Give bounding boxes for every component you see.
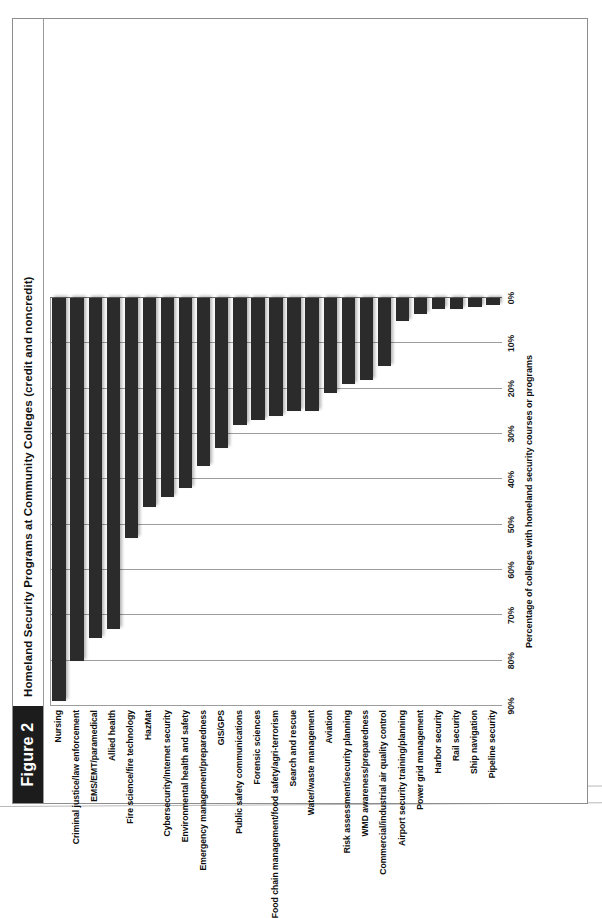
category-label: Search and rescue bbox=[289, 710, 298, 786]
value-axis-title: Percentage of colleges with homeland sec… bbox=[524, 297, 534, 706]
gridline-90% bbox=[50, 705, 502, 706]
bar bbox=[396, 298, 409, 321]
value-axis-tick-labels: 0%10%20%30%40%50%60%70%80%90% bbox=[506, 297, 522, 706]
bar bbox=[52, 298, 65, 701]
tick-label-80%: 80% bbox=[506, 652, 516, 669]
tick-label-70%: 70% bbox=[506, 607, 516, 624]
bar bbox=[414, 298, 427, 314]
bar bbox=[215, 298, 228, 448]
bar bbox=[360, 298, 373, 380]
bar bbox=[70, 298, 83, 661]
category-label: EMS/EMT/paramedical bbox=[90, 710, 99, 802]
figure-caption: Homeland Security Programs at Community … bbox=[13, 276, 43, 697]
bar bbox=[161, 298, 174, 497]
plot-area bbox=[50, 298, 502, 706]
bar bbox=[432, 298, 445, 309]
category-label: Commercial/industrial air quality contro… bbox=[379, 710, 388, 875]
category-label: Power grid management bbox=[416, 710, 425, 810]
category-label: Harbor security bbox=[434, 710, 443, 774]
category-label: Criminal justice/law enforcement bbox=[72, 710, 81, 844]
tick-label-50%: 50% bbox=[506, 516, 516, 533]
category-label: Fire science/fire technology bbox=[126, 710, 135, 824]
bar bbox=[233, 298, 246, 425]
bar bbox=[107, 298, 120, 629]
gridline-80% bbox=[50, 660, 502, 661]
category-label: Allied health bbox=[108, 710, 117, 761]
tick-label-40%: 40% bbox=[506, 471, 516, 488]
category-label: Pipeline security bbox=[488, 710, 497, 778]
category-label: Cybersecurity/Internet security bbox=[163, 710, 172, 837]
bar bbox=[450, 298, 463, 309]
category-label: Ship navigation bbox=[470, 710, 479, 774]
tick-label-10%: 10% bbox=[506, 335, 516, 352]
bar bbox=[342, 298, 355, 384]
bar bbox=[251, 298, 264, 420]
category-label: WMD awareness/preparedness bbox=[361, 710, 370, 837]
category-label: Food chain management/food safety/agri-t… bbox=[271, 710, 280, 918]
plot-top-rule bbox=[50, 297, 51, 706]
category-label: Public safety communications bbox=[235, 710, 244, 834]
category-label: Water/waste management bbox=[307, 710, 316, 815]
bar bbox=[125, 298, 138, 538]
bar bbox=[287, 298, 300, 411]
tick-label-30%: 30% bbox=[506, 425, 516, 442]
category-axis-labels: NursingCriminal justice/law enforcementE… bbox=[50, 710, 502, 810]
category-label: Rail security bbox=[452, 710, 461, 761]
bar bbox=[305, 298, 318, 411]
figure-header: Figure 2 Homeland Security Programs at C… bbox=[13, 19, 43, 803]
bar bbox=[468, 298, 481, 307]
bar bbox=[269, 298, 282, 416]
category-label: Aviation bbox=[325, 710, 334, 744]
category-label: Risk assessment/security planning bbox=[343, 710, 352, 853]
category-label: Environmental health and safety bbox=[181, 710, 190, 842]
figure-number-badge: Figure 2 bbox=[13, 706, 43, 803]
bar bbox=[89, 298, 102, 638]
bar bbox=[378, 298, 391, 366]
bar bbox=[197, 298, 210, 466]
bar bbox=[143, 298, 156, 507]
bar bbox=[179, 298, 192, 488]
category-label: GIS/GPS bbox=[217, 710, 226, 745]
bar bbox=[324, 298, 337, 393]
tick-label-0%: 0% bbox=[506, 292, 516, 304]
tick-label-60%: 60% bbox=[506, 561, 516, 578]
category-label: Airport security training/planning bbox=[398, 710, 407, 846]
category-label: Forensic sciences bbox=[253, 710, 262, 785]
tick-label-20%: 20% bbox=[506, 380, 516, 397]
category-label: HazMat bbox=[144, 710, 153, 740]
tick-label-90%: 90% bbox=[506, 697, 516, 714]
header-divider bbox=[43, 19, 44, 803]
category-label: Nursing bbox=[54, 710, 63, 742]
category-label: Emergency management/preparedness bbox=[199, 710, 208, 870]
bar bbox=[486, 298, 499, 305]
